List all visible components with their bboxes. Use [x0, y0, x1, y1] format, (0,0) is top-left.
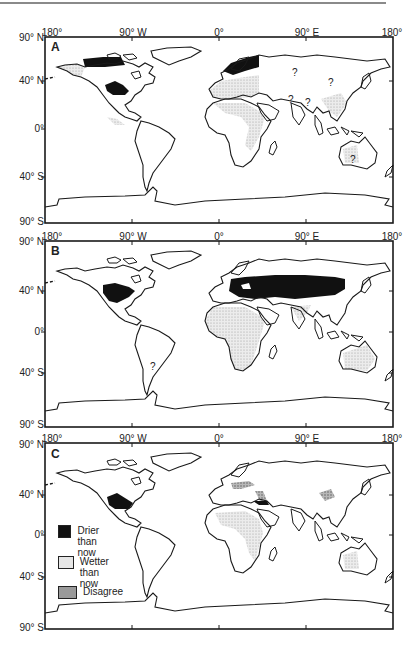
world-map-a: [45, 37, 393, 223]
panel-label-a: A: [51, 42, 60, 52]
legend-item-wetter: Wetter than now: [58, 556, 112, 589]
lat-label-40n: 40° N: [4, 76, 44, 86]
legend-label: Wetter than now: [80, 556, 113, 589]
world-map-b: [45, 241, 393, 427]
legend-label: Drier than now: [77, 525, 104, 558]
legend-item-drier: Drier than now: [58, 525, 105, 558]
lat-label-90n: 90° N: [4, 33, 44, 43]
lat-label-90s: 90° S: [4, 217, 44, 227]
lat-label-0: 0°: [4, 530, 44, 540]
lat-label-40n: 40° N: [4, 490, 44, 500]
lat-label-0: 0°: [4, 124, 44, 134]
uncertain-mark: ?: [350, 155, 356, 165]
lat-label-90n: 90° N: [4, 440, 44, 450]
uncertain-mark: ?: [288, 95, 294, 105]
panel-label-c: C: [51, 449, 60, 459]
legend-item-disagree: Disagree: [58, 586, 123, 599]
disagree-swatch: [58, 586, 77, 599]
uncertain-mark: ?: [292, 68, 298, 78]
legend-label: Disagree: [83, 586, 123, 597]
drier-swatch: [58, 525, 71, 538]
lat-label-40s: 40° S: [4, 172, 44, 182]
lat-label-40n: 40° N: [4, 286, 44, 296]
lat-label-0: 0°: [4, 327, 44, 337]
uncertain-mark: ?: [150, 362, 156, 372]
uncertain-mark: ?: [328, 78, 334, 88]
uncertain-mark: ?: [305, 98, 311, 108]
lat-label-40s: 40° S: [4, 368, 44, 378]
lat-label-40s: 40° S: [4, 572, 44, 582]
lat-label-90s: 90° S: [4, 420, 44, 430]
top-rule: [0, 2, 386, 4]
wetter-swatch: [58, 556, 74, 569]
panel-label-b: B: [51, 246, 60, 256]
lat-label-90n: 90° N: [4, 237, 44, 247]
lat-label-90s: 90° S: [4, 623, 44, 633]
